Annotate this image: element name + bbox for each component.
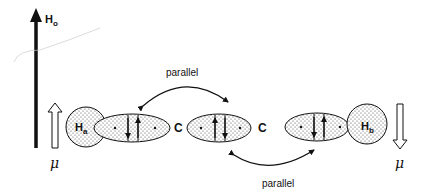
- parallel-coupling-arrow-top: [143, 87, 228, 106]
- moment-up-arrow-icon: [48, 103, 62, 148]
- bond-orbital-middle: [187, 114, 251, 142]
- coupling-label-top: parallel: [166, 67, 198, 78]
- carbon-2-label: C: [258, 121, 267, 135]
- bond-orbital-right: [285, 113, 349, 141]
- moment-down-arrow-icon: [393, 104, 407, 149]
- moment-label-left: μ: [50, 155, 59, 171]
- bond-orbital-left: [94, 114, 170, 142]
- magnetic-field-arrow: [30, 8, 42, 148]
- field-label: Ho: [45, 13, 58, 28]
- parallel-coupling-arrow-bottom: [234, 150, 314, 165]
- carbon-1-label: C: [174, 121, 183, 135]
- coupling-label-bottom: parallel: [262, 178, 294, 189]
- moment-label-right: μ: [395, 155, 404, 171]
- spin-coupling-diagram: Ho μ μ Ha C C: [0, 0, 422, 196]
- stray-mark: [14, 28, 100, 62]
